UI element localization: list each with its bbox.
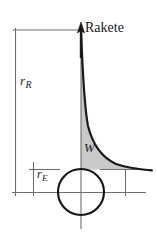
radius-earth-label: rE bbox=[37, 168, 48, 184]
radius-earth-subscript: E bbox=[42, 173, 48, 183]
radius-rocket-subscript: R bbox=[25, 79, 31, 90]
diagram-canvas bbox=[0, 0, 157, 242]
radius-earth-base: r bbox=[37, 167, 42, 181]
work-label: W bbox=[84, 141, 95, 154]
rocket-label: Rakete bbox=[85, 21, 124, 35]
radius-rocket-label: rR bbox=[20, 74, 32, 91]
gravitation-work-diagram: Rakete rR rE W bbox=[0, 0, 157, 242]
